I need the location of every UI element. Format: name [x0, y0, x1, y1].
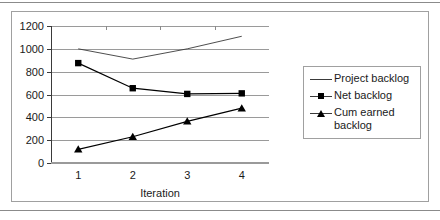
legend-item: Cum earned backlog — [308, 106, 416, 132]
x-tick-label: 4 — [239, 169, 245, 181]
y-tick-label: 600 — [26, 89, 44, 101]
data-point-marker — [238, 104, 246, 111]
y-tick-label: 1000 — [20, 43, 44, 55]
x-tick-label: 1 — [75, 169, 81, 181]
y-tick-label: 400 — [26, 111, 44, 123]
series-line — [78, 36, 242, 59]
data-point-marker — [75, 60, 81, 66]
plot-area: 020040060080010001200 1234 Iteration — [51, 26, 269, 163]
x-tick-label: 2 — [130, 169, 136, 181]
legend-label: Net backlog — [334, 89, 392, 102]
legend-square-icon — [308, 90, 334, 103]
data-point-marker — [130, 85, 136, 91]
x-tick-label: 3 — [184, 169, 190, 181]
y-tick-label: 0 — [38, 157, 44, 169]
data-point-marker — [239, 90, 245, 96]
gridline — [51, 163, 269, 164]
legend-label: Project backlog — [334, 72, 409, 85]
y-tick-label: 800 — [26, 66, 44, 78]
y-tick-label: 200 — [26, 134, 44, 146]
series-lines — [51, 26, 269, 163]
chart-legend: Project backlogNet backlogCum earned bac… — [303, 66, 421, 139]
page-rule-bottom — [0, 210, 440, 211]
legend-triangle-icon — [308, 107, 334, 120]
chart-figure: 020040060080010001200 1234 Iteration Pro… — [0, 0, 440, 220]
y-tick-label: 1200 — [20, 20, 44, 32]
data-point-marker — [184, 91, 190, 97]
legend-line-icon — [308, 73, 334, 86]
page-rule-top — [0, 2, 440, 3]
series-line — [78, 108, 242, 149]
legend-label: Cum earned backlog — [334, 106, 416, 132]
chart-frame: 020040060080010001200 1234 Iteration Pro… — [11, 11, 429, 202]
series-line — [78, 63, 242, 94]
y-tick-mark — [47, 163, 51, 164]
legend-item: Net backlog — [308, 89, 416, 103]
x-axis-title: Iteration — [140, 187, 180, 199]
legend-item: Project backlog — [308, 72, 416, 86]
